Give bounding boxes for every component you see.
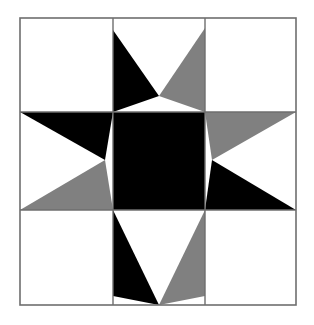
diagram-canvas (0, 0, 314, 325)
center-square (113, 112, 205, 210)
quilt-block-diagram (0, 0, 314, 325)
